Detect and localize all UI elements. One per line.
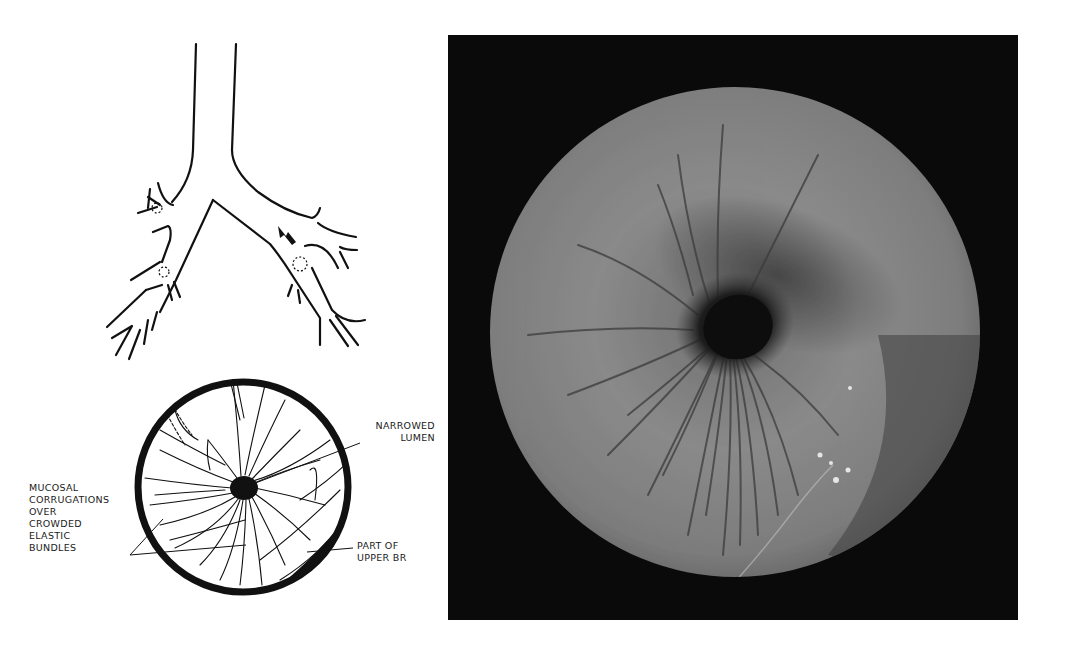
label-mucosal-corrugations: MUCOSAL CORRUGATIONS OVER CROWDED ELASTI… — [29, 482, 119, 554]
label-part-of-upper-br: PART OF UPPER BR — [357, 540, 437, 564]
bronchoscopic-photograph — [448, 35, 1018, 620]
narrowed-lumen — [230, 476, 258, 500]
label-narrowed-lumen: NARROWED LUMEN — [345, 420, 435, 444]
